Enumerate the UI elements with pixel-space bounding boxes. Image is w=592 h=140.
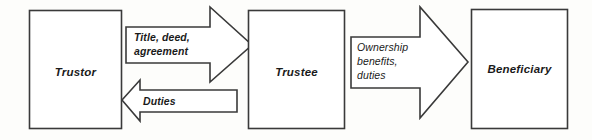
edge-label-ownership-line2: benefits, — [357, 55, 398, 67]
trust-relationship-diagram: Trustor Title, deed, agreement Duties Tr… — [0, 0, 592, 140]
beneficiary-label: Beneficiary — [487, 63, 552, 75]
edge-trustee-to-beneficiary: Ownership benefits, duties — [351, 7, 468, 118]
arrow-left-duties — [122, 80, 237, 121]
node-beneficiary: Beneficiary — [472, 10, 568, 129]
edge-label-title-deed-line1: Title, deed, — [134, 31, 190, 43]
node-trustee: Trustee — [249, 11, 345, 129]
edge-label-ownership-line3: duties — [357, 69, 386, 81]
node-trustor: Trustor — [30, 11, 122, 129]
trustee-label: Trustee — [275, 66, 318, 78]
edge-trustee-to-trustor: Duties — [122, 80, 237, 121]
edge-label-title-deed-line2: agreement — [134, 45, 188, 57]
edge-label-ownership-line1: Ownership — [357, 41, 408, 53]
diagram-canvas: Trustor Title, deed, agreement Duties Tr… — [0, 0, 592, 140]
edge-label-duties: Duties — [143, 95, 176, 107]
trustor-label: Trustor — [55, 66, 97, 78]
edge-trustor-to-trustee: Title, deed, agreement — [126, 7, 252, 82]
